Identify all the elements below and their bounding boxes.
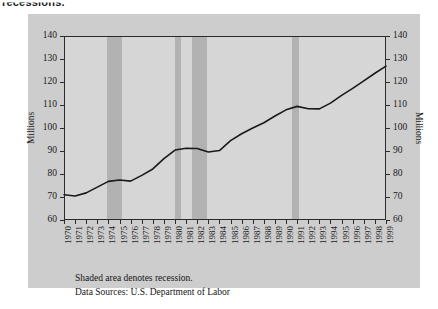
x-axis-tick <box>208 220 209 224</box>
x-axis-tick <box>231 220 232 224</box>
y-axis-tick <box>386 59 390 60</box>
x-axis-year-label: 1987 <box>252 226 262 244</box>
x-axis-tick <box>86 220 87 224</box>
y-axis-tick <box>386 197 390 198</box>
x-axis-year-label: 1983 <box>207 226 217 244</box>
y-axis-tick-label: 100 <box>393 123 407 133</box>
x-axis-year-label: 1990 <box>285 226 295 244</box>
x-axis-tick <box>197 220 198 224</box>
x-axis-year-label: 1984 <box>218 226 228 244</box>
x-axis-year-label: 1986 <box>241 226 251 244</box>
x-axis-year-label: 1976 <box>130 226 140 244</box>
x-axis-year-label: 1999 <box>385 226 395 244</box>
x-axis-tick <box>242 220 243 224</box>
x-axis-tick <box>253 220 254 224</box>
y-axis-tick-label: 110 <box>43 100 57 110</box>
chart-panel: 6060707080809090100100110110120120130130… <box>28 14 420 288</box>
y-axis-tick <box>386 82 390 83</box>
x-axis-tick <box>308 220 309 224</box>
x-axis-year-label: 1991 <box>296 226 306 244</box>
x-axis-tick <box>142 220 143 224</box>
employment-line-series <box>64 36 386 220</box>
caption-line-recession: Shaded area denotes recession. <box>75 272 230 286</box>
x-axis-year-label: 1980 <box>174 226 184 244</box>
x-axis-year-label: 1994 <box>329 226 339 244</box>
y-axis-tick-label: 100 <box>43 123 57 133</box>
y-axis-tick-label: 140 <box>43 31 57 41</box>
x-axis-year-label: 1979 <box>163 226 173 244</box>
x-axis-year-label: 1973 <box>96 226 106 244</box>
x-axis-tick <box>319 220 320 224</box>
x-axis-tick <box>164 220 165 224</box>
x-axis-year-label: 1998 <box>374 226 384 244</box>
x-axis-tick <box>275 220 276 224</box>
x-axis-tick <box>386 220 387 224</box>
x-axis-year-label: 1975 <box>119 226 129 244</box>
x-axis-tick <box>64 220 65 224</box>
x-axis-tick <box>108 220 109 224</box>
y-axis-tick <box>386 105 390 106</box>
x-axis-tick <box>186 220 187 224</box>
y-axis-tick-label: 120 <box>393 77 407 87</box>
y-axis-tick <box>386 128 390 129</box>
x-axis-year-label: 1971 <box>74 226 84 244</box>
y-axis-tick-label: 60 <box>393 215 403 225</box>
x-axis-year-label: 1970 <box>63 226 73 244</box>
x-axis-year-label: 1996 <box>352 226 362 244</box>
x-axis-year-label: 1995 <box>341 226 351 244</box>
x-axis-year-label: 1981 <box>185 226 195 244</box>
x-axis-year-label: 1985 <box>230 226 240 244</box>
x-axis-year-label: 1978 <box>152 226 162 244</box>
caption-line-sources: Data Sources: U.S. Department of Labor <box>75 286 230 300</box>
cut-off-heading-text: recessions. <box>2 0 65 8</box>
y-axis-tick <box>386 36 390 37</box>
x-axis-tick <box>131 220 132 224</box>
x-axis-year-label: 1992 <box>307 226 317 244</box>
y-axis-tick-label: 120 <box>43 77 57 87</box>
y-axis-tick-label: 80 <box>48 169 58 179</box>
x-axis-tick <box>297 220 298 224</box>
y-axis-tick <box>386 174 390 175</box>
x-axis-tick <box>219 220 220 224</box>
y-axis-tick <box>386 151 390 152</box>
x-axis-tick <box>264 220 265 224</box>
x-axis-year-label: 1993 <box>318 226 328 244</box>
x-axis-year-label: 1988 <box>263 226 273 244</box>
y-axis-tick-label: 110 <box>393 100 407 110</box>
x-axis-tick <box>330 220 331 224</box>
x-axis-tick <box>175 220 176 224</box>
x-axis-tick <box>75 220 76 224</box>
x-axis-year-label: 1972 <box>85 226 95 244</box>
x-axis-tick <box>286 220 287 224</box>
x-axis-year-label: 1977 <box>141 226 151 244</box>
x-axis-year-label: 1997 <box>363 226 373 244</box>
x-axis-year-label: 1989 <box>274 226 284 244</box>
y-axis-right-title: Millions <box>414 112 424 144</box>
chart-caption: Shaded area denotes recession. Data Sour… <box>75 272 230 300</box>
y-axis-tick-label: 70 <box>48 192 58 202</box>
y-axis-tick-label: 130 <box>43 54 57 64</box>
y-axis-tick-label: 60 <box>48 215 58 225</box>
x-axis-tick <box>120 220 121 224</box>
x-axis-tick <box>342 220 343 224</box>
x-axis-tick <box>353 220 354 224</box>
x-axis-year-label: 1982 <box>196 226 206 244</box>
x-axis-tick <box>153 220 154 224</box>
x-axis-tick <box>364 220 365 224</box>
plot-area-container: 6060707080809090100100110110120120130130… <box>64 36 386 220</box>
y-axis-tick-label: 90 <box>393 146 403 156</box>
x-axis-year-label: 1974 <box>107 226 117 244</box>
y-axis-tick-label: 130 <box>393 54 407 64</box>
y-axis-tick-label: 80 <box>393 169 403 179</box>
y-axis-left-title: Millions <box>26 112 36 144</box>
x-axis-tick <box>375 220 376 224</box>
y-axis-tick-label: 70 <box>393 192 403 202</box>
x-axis-tick <box>97 220 98 224</box>
y-axis-tick-label: 90 <box>48 146 58 156</box>
y-axis-tick-label: 140 <box>393 31 407 41</box>
